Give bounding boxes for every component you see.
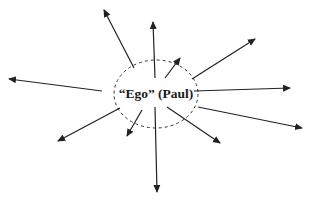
arrow-right: [194, 88, 290, 91]
arrow-short-up-right: [165, 58, 180, 78]
arrow-short-down-left: [127, 110, 142, 136]
arrow-left: [9, 79, 102, 91]
arrow-up: [153, 22, 155, 78]
ego-center-label: “Ego” (Paul): [106, 85, 206, 103]
arrow-upper-right: [192, 39, 255, 79]
arrow-down: [155, 107, 157, 192]
arrow-lower-left: [58, 108, 120, 141]
arrow-down-right: [167, 107, 220, 143]
arrow-lower-right: [198, 107, 302, 128]
arrow-upper-left: [104, 10, 134, 68]
